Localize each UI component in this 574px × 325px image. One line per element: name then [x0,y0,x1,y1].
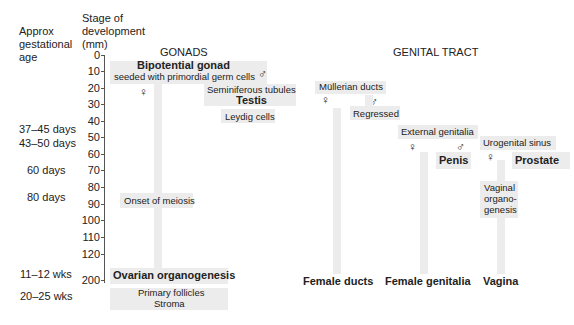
age-header-line: age [19,51,72,64]
vagina-label: Vagina [483,275,518,287]
stage-header: Stage of development (mm) [82,12,145,51]
vaginal-org-label: Vaginal organo- genesis [484,182,517,215]
tick-label: 100 [70,214,100,226]
tick-label: 30 [70,98,100,110]
tract-title: GENITAL TRACT [393,46,478,58]
seeded-label: seeded with primordial germ cells [114,71,255,82]
stroma-label: Stroma [154,298,185,309]
age-label: 60 days [27,164,66,176]
gonads-title: GONADS [160,46,208,58]
age-label: 37–45 days [19,123,76,135]
age-label: 80 days [27,191,66,203]
tick-mark [101,154,105,155]
tick-mark [101,187,105,188]
tick-mark [101,55,105,56]
tick-label: 110 [70,231,100,243]
follicles-label: Primary follicles [138,287,205,298]
stage-header-line: development [82,25,145,38]
y-axis [104,55,105,283]
tick-label: 0 [70,49,100,61]
tick-mark [101,237,105,238]
ovarian-label: Ovarian organogenesis [113,269,235,281]
female-genitalia-bar [420,152,428,274]
prostate-label: Prostate [515,154,559,166]
female-gonad-bar [154,84,162,270]
regressed-label: Regressed [353,108,399,119]
tick-mark [101,88,105,89]
tick-mark [101,104,105,105]
tick-label: 90 [70,198,100,210]
tick-mark [101,254,105,255]
male-icon: ♂ [258,67,267,81]
tick-mark [101,71,105,72]
vaginal-org-line: organo- [484,193,517,204]
age-header: Approx gestational age [19,25,72,64]
tick-label: 20 [70,82,100,94]
tick-label: 120 [70,248,100,260]
female-genitalia-label: Female genitalia [385,275,471,287]
tick-mark [101,220,105,221]
female-icon: ♀ [139,85,148,99]
age-label: 20–25 wks [20,290,73,302]
leydig-label: Leydig cells [225,111,275,122]
external-label: External genitalia [401,126,474,137]
urogenital-label: Urogenital sinus [483,137,551,148]
vaginal-org-line: Vaginal [484,182,517,193]
tick-label: 70 [70,164,100,176]
meiosis-label: Onset of meiosis [124,195,195,206]
age-label: 11–12 wks [20,268,72,280]
tick-label: 10 [70,65,100,77]
age-header-line: gestational [19,38,72,51]
female-ducts-bar [333,108,341,274]
tick-mark [101,170,105,171]
age-label: 43–50 days [19,137,76,149]
female-icon: ♀ [408,140,417,154]
stage-header-line: Stage of [82,12,145,25]
penis-label: Penis [439,154,468,166]
tick-label: 50 [70,131,100,143]
testis-label: Testis [236,94,267,106]
age-header-line: Approx [19,25,72,38]
female-icon: ♀ [486,150,495,164]
vaginal-org-line: genesis [484,204,517,215]
tick-mark [101,204,105,205]
tick-mark [101,137,105,138]
tick-label: 200 [70,274,100,286]
tick-label: 60 [70,148,100,160]
tick-label: 80 [70,181,100,193]
tick-mark [101,121,105,122]
female-icon: ♀ [321,93,330,107]
female-ducts-label: Female ducts [303,275,373,287]
tick-label: 40 [70,115,100,127]
mullerian-label: Müllerian ducts [319,81,383,92]
bipotential-label: Bipotential gonad [137,59,230,71]
tick-mark [101,280,105,281]
